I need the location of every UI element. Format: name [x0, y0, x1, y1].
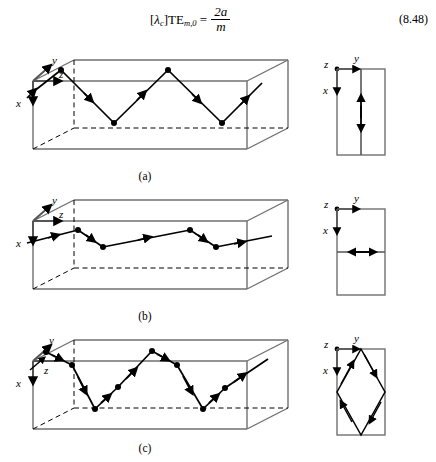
ray-arrow-3 [101, 395, 110, 403]
axis-label-y: y [51, 194, 57, 206]
equation-block: [λc]TEm,0 = 2a m (8.48) [0, 0, 436, 46]
ray-arrow-3 [137, 92, 145, 100]
axis-label-x: x [15, 97, 21, 109]
end-view-diamond [337, 349, 385, 435]
end-view-axis-label-x: x [322, 364, 328, 376]
waveguide-box-a [33, 60, 288, 149]
ray-arrow-5 [157, 354, 168, 360]
reflection-point [165, 67, 171, 73]
ray-arrow-4 [192, 94, 200, 102]
ray-seg-5 [216, 236, 272, 247]
axis-triad-b: x y z [15, 194, 64, 249]
equation-expression: [λc]TEm,0 = 2a m [150, 6, 231, 35]
fraction-denominator: m [211, 20, 230, 34]
ray-seg-6 [177, 365, 203, 409]
box-edge-diag-bottom-right [247, 128, 288, 149]
reflection-point [100, 244, 106, 250]
end-view-axis-label-y: y [353, 192, 359, 204]
axis-triad-a: x y z [15, 54, 64, 109]
panel-b: x y z [0, 186, 436, 336]
end-view-axis-label-z: z [323, 338, 329, 350]
end-view-arrow-up-left [341, 402, 352, 422]
end-view-arrow-down-left [370, 402, 381, 422]
end-view-rect [337, 349, 385, 435]
panel-caption-c: (c) [0, 442, 290, 454]
axis-label-x: x [15, 237, 21, 249]
end-view-b: z y x [322, 192, 385, 295]
fraction-numerator: 2a [211, 5, 230, 20]
end-view-axis-label-z: z [323, 58, 329, 70]
reflection-point [187, 227, 193, 233]
box-edge-diag-bottom-left-hidden [33, 408, 74, 429]
box-edge-diag-top-right [247, 200, 288, 221]
reflection-point [174, 362, 180, 368]
reflection-point [43, 349, 49, 355]
ray-arrow-2 [78, 377, 86, 393]
ray-arrow-4 [198, 235, 206, 241]
waveguide-figure: [λc]TEm,0 = 2a m (8.48) [0, 0, 436, 462]
end-view-axis-label-z: z [323, 198, 329, 210]
axis-label-x: x [15, 377, 21, 389]
reflection-point [149, 348, 155, 354]
mode-label: TE [168, 12, 184, 27]
fraction: 2a m [211, 5, 230, 34]
axis-label-y: y [51, 54, 57, 66]
ray-arrow-6 [183, 376, 192, 393]
reflection-point [219, 120, 225, 126]
ray-path-b [27, 227, 272, 250]
reflection-point [213, 244, 219, 250]
end-view-axis-label-y: y [353, 52, 359, 64]
ray-exit-arrow [234, 242, 244, 244]
end-view-arrow-up-right [341, 362, 353, 384]
reflection-point [58, 67, 64, 73]
waveguide-box-c [33, 340, 288, 429]
reflection-point [200, 406, 206, 412]
box-edge-diag-top-right [247, 340, 288, 361]
panel-caption-b: (b) [0, 310, 290, 322]
end-view-c: z y x [322, 332, 385, 435]
ray-arrow-2 [84, 93, 92, 101]
box-edge-diag-bottom-right [247, 268, 288, 289]
axis-triad-c: x y z [15, 334, 58, 389]
end-view-axis-label-x: x [322, 84, 328, 96]
box-edge-diag-bottom-left-hidden [33, 128, 74, 149]
mode-subscript: m,0 [184, 18, 197, 28]
box-edge-diag-top-right [247, 60, 288, 81]
end-view-a: z y x [322, 52, 385, 155]
equation-number: (8.48) [399, 12, 428, 27]
box-edge-diag-bottom-right [247, 408, 288, 429]
box-edge-diag-bottom-left-hidden [33, 268, 74, 289]
panel-a: x y z [0, 46, 436, 196]
ray-exit-arrow [234, 374, 245, 382]
axis-label-z: z [58, 208, 64, 220]
end-view-axis-label-y: y [353, 332, 359, 344]
axis-label-z: z [43, 364, 49, 376]
reflection-point [69, 362, 75, 368]
reflection-point [222, 385, 228, 391]
reflection-point [75, 227, 81, 233]
end-view-axis-label-x: x [322, 224, 328, 236]
ray-arrow-1 [52, 355, 62, 360]
axis-label-y: y [48, 334, 54, 346]
ray-path-c [43, 348, 268, 412]
ray-arrow-2 [86, 235, 94, 241]
panel-c: x y z [0, 326, 436, 462]
reflection-point [115, 384, 121, 390]
end-view-arrow-down-right [364, 354, 376, 376]
ray-arrow-4 [126, 369, 136, 379]
waveguide-box-b [33, 200, 288, 289]
reflection-point [92, 406, 98, 412]
panel-caption-a: (a) [0, 170, 290, 182]
ray-arrow-7 [209, 395, 218, 403]
reflection-point [111, 120, 117, 126]
equals-sign: = [200, 12, 207, 27]
